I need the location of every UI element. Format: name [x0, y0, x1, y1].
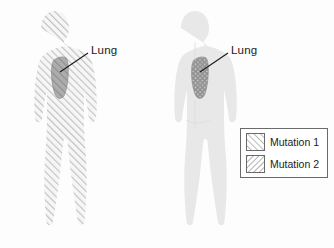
lung-label-right: Lung — [231, 44, 257, 56]
body-silhouette-right — [174, 11, 237, 225]
mutation-1-swatch — [246, 133, 265, 151]
organ-lung-right — [192, 57, 209, 98]
body-figure-left — [34, 11, 97, 225]
legend-label-mutation-1: Mutation 1 — [270, 137, 319, 148]
lung-label-left: Lung — [91, 44, 117, 56]
legend-item-mutation-2: Mutation 2 — [246, 155, 319, 173]
legend-label-mutation-2: Mutation 2 — [270, 159, 319, 170]
legend-item-mutation-1: Mutation 1 — [246, 133, 319, 151]
body-silhouette-left — [34, 11, 97, 225]
body-figures-svg — [0, 0, 334, 248]
organ-lung-left — [52, 57, 69, 98]
mutation-2-swatch — [246, 155, 265, 173]
diagram-canvas: Lung Lung Mutation 1 Mutation 2 — [0, 0, 334, 248]
legend: Mutation 1 Mutation 2 — [240, 128, 328, 178]
body-figure-right — [174, 11, 237, 225]
